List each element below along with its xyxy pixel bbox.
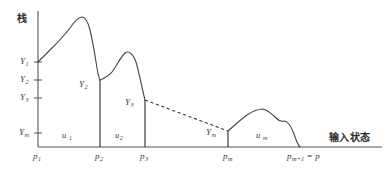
x-tick-label-p3-base: p (140, 151, 145, 161)
y-tick-label-Y1-base: Y (20, 56, 25, 66)
x-tick-label-pm1-suffix: = p (307, 151, 320, 161)
curve-segment-u2 (100, 52, 145, 100)
interval-label-u1-sub: 1 (69, 135, 72, 141)
x-tick-label-p3-sub: 3 (145, 155, 148, 162)
interval-label-u2-base: u (115, 130, 119, 140)
interval-label-u1: u 1 (62, 131, 72, 140)
y-tick-label-Y1: Y1 (20, 57, 29, 66)
stack-input-state-figure: 栈 输入状态 Y1 Y2 Y3 Ym p1 p2 p3 pm pm+1 = p … (0, 0, 386, 173)
x-tick-label-pm1-sub: m+1 (292, 155, 304, 162)
x-tick-label-p1-sub: 1 (38, 155, 41, 162)
curve-point-label-Y3: Y3 (125, 98, 134, 107)
y-tick-label-Y3: Y3 (20, 93, 29, 102)
x-axis-title: 输入状态 (329, 133, 371, 143)
y-tick-label-Y2: Y2 (20, 75, 29, 84)
y-tick-label-Y2-base: Y (20, 74, 25, 84)
y-tick-label-Y2-sub: 2 (26, 78, 29, 85)
x-tick-label-pm1-base: p (287, 151, 292, 161)
interval-label-u2-sub: 2 (120, 135, 123, 141)
y-tick-label-Y1-sub: 1 (26, 60, 29, 67)
plot-canvas (0, 0, 386, 173)
x-tick-label-pm1: pm+1 = p (287, 152, 320, 161)
curve-point-label-Ym: Ym (206, 128, 216, 137)
curve-segment-u1 (38, 17, 100, 80)
x-tick-label-p3: p3 (140, 152, 148, 161)
y-tick-label-Y3-sub: 3 (26, 96, 29, 103)
interval-label-um-sub: m (263, 135, 268, 141)
curve-point-label-Y2-sub: 2 (85, 83, 88, 90)
curve-point-label-Y2: Y2 (79, 80, 88, 89)
y-tick-label-Ym: Ym (19, 128, 29, 137)
dashed-connector-Y3-Ym (145, 100, 228, 131)
curve-point-label-Ym-sub: m (212, 131, 217, 138)
interval-label-u1-base: u (62, 130, 66, 140)
x-tick-label-p2: p2 (95, 152, 103, 161)
y-tick-label-Ym-base: Y (19, 127, 24, 137)
x-tick-label-p2-sub: 2 (100, 155, 103, 162)
interval-label-um-base: u (256, 130, 260, 140)
x-tick-label-p2-base: p (95, 151, 100, 161)
y-axis-title: 栈 (17, 14, 27, 24)
y-tick-label-Ym-sub: m (25, 131, 30, 138)
curve-point-label-Y3-base: Y (125, 97, 130, 107)
x-tick-label-pm: pm (223, 152, 232, 161)
curve-point-label-Y2-base: Y (79, 79, 84, 89)
x-tick-label-p1-base: p (33, 151, 38, 161)
curve-point-label-Y3-sub: 3 (131, 101, 134, 108)
x-tick-label-pm-sub: m (228, 155, 233, 162)
curve-point-label-Ym-base: Y (206, 127, 211, 137)
interval-label-um: u m (256, 131, 267, 140)
x-tick-label-pm-base: p (223, 151, 228, 161)
interval-label-u2: u2 (115, 131, 123, 140)
curve-segment-um (228, 109, 300, 147)
y-tick-label-Y3-base: Y (20, 92, 25, 102)
x-tick-label-p1: p1 (33, 152, 41, 161)
